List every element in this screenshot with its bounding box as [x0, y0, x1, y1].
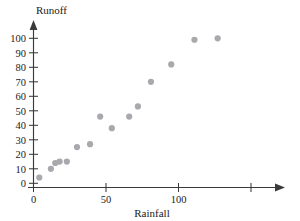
- y-tick-label-100: 100: [10, 33, 26, 44]
- data-point: [57, 158, 63, 164]
- data-point: [74, 144, 80, 150]
- data-point: [126, 114, 132, 120]
- y-tick-label-10: 10: [16, 164, 27, 175]
- y-tick-label-70: 70: [16, 77, 27, 88]
- data-point: [64, 158, 70, 164]
- data-point: [97, 114, 103, 120]
- x-axis-arrowhead: [275, 184, 285, 192]
- data-point: [135, 103, 141, 109]
- data-point: [191, 37, 197, 43]
- data-point: [36, 174, 42, 180]
- y-tick-label-20: 20: [16, 149, 27, 160]
- y-tick-labels: 100 90 80 70 60 50 40 30 20 10 0: [10, 33, 26, 189]
- y-tick-label-80: 80: [16, 62, 27, 73]
- data-point: [48, 166, 54, 172]
- x-tick-label-50: 50: [101, 194, 112, 205]
- y-axis: [30, 20, 38, 188]
- data-point: [87, 141, 93, 147]
- data-point: [215, 35, 221, 41]
- data-points-layer: [36, 35, 221, 180]
- x-axis: [28, 184, 285, 192]
- chart-canvas: 100 90 80 70 60 50 40 30 20 10 0 0 50 10…: [0, 0, 300, 221]
- y-tick-label-60: 60: [16, 91, 27, 102]
- x-tick-labels: 0 50 100: [31, 194, 187, 205]
- y-tick-label-30: 30: [16, 135, 27, 146]
- x-tick-label-0: 0: [31, 194, 36, 205]
- y-tick-label-50: 50: [16, 106, 27, 117]
- y-axis-title: Runoff: [36, 4, 67, 16]
- x-axis-title: Rainfall: [134, 207, 169, 219]
- data-point: [148, 79, 154, 85]
- data-point: [168, 61, 174, 67]
- y-tick-label-40: 40: [16, 120, 27, 131]
- data-point: [109, 125, 115, 131]
- y-tick-label-0: 0: [21, 178, 26, 189]
- y-axis-arrowhead: [30, 20, 38, 30]
- y-tick-label-90: 90: [16, 48, 27, 59]
- x-tick-label-100: 100: [171, 194, 187, 205]
- scatter-plot-figure: 100 90 80 70 60 50 40 30 20 10 0 0 50 10…: [0, 0, 300, 221]
